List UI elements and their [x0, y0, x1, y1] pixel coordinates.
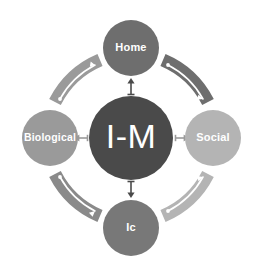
arc-arrow-tail-top-left: [58, 97, 62, 101]
node-social[interactable]: Social: [185, 110, 241, 166]
node-hub[interactable]: I-M: [89, 96, 173, 180]
diagram-canvas: Home Social Ic Biological I-M: [0, 0, 263, 277]
node-social-label: Social: [196, 131, 230, 143]
node-ic-label: Ic: [126, 221, 136, 233]
arc-ic-to-social: [163, 174, 208, 216]
arc-biological-to-home: [55, 60, 100, 102]
arc-arrow-tail-top-right: [166, 63, 170, 67]
arc-arrow-tail-bottom-left: [58, 175, 62, 179]
arc-biological-to-ic: [55, 174, 100, 217]
node-biological[interactable]: Biological: [22, 110, 78, 166]
node-home[interactable]: Home: [103, 20, 159, 76]
spoke-hub-to-home: [127, 78, 134, 95]
hub-label: I-M: [106, 117, 157, 155]
node-home-label: Home: [115, 41, 146, 53]
arc-home-to-social: [163, 60, 208, 102]
node-ic[interactable]: Ic: [103, 200, 159, 256]
spoke-hub-to-ic: [127, 182, 134, 199]
spoke-arrowhead-up: [127, 78, 134, 83]
node-biological-label: Biological: [24, 131, 76, 143]
spoke-arrowhead-down: [127, 193, 134, 198]
cycle-diagram: Home Social Ic Biological I-M: [0, 0, 263, 277]
arc-arrow-tail-bottom-right: [166, 209, 170, 213]
